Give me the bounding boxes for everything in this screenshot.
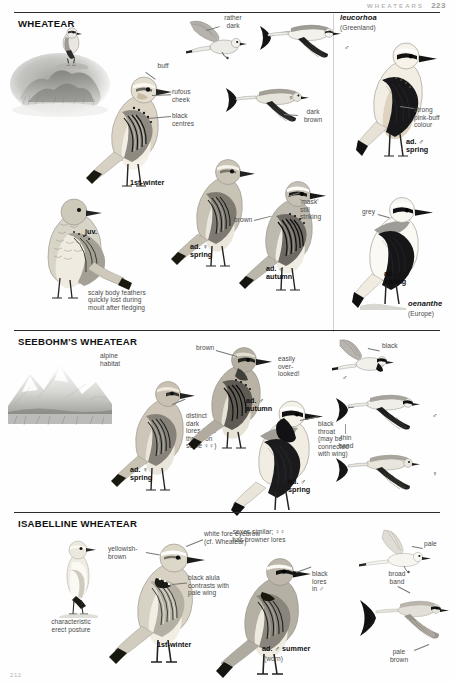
field-guide-page: WHEATEARS 223 WHEATEAR bbox=[0, 0, 454, 684]
label-sexes-similar: sexes similar; ♀♀ has browner lores bbox=[212, 528, 306, 543]
symbol-male-seebohms-flight: ♂ bbox=[342, 374, 347, 382]
leader-thin-band-up bbox=[345, 424, 346, 434]
label-thin-band: thin band bbox=[333, 434, 359, 449]
section-title-isabelline: ISABELLINE WHEATEAR bbox=[18, 518, 137, 529]
label-scaly-feathers: scaly body feathers quickly lost during … bbox=[88, 289, 184, 311]
age-label-leucorhoa-male-spring: ad. ♂ spring bbox=[406, 138, 428, 155]
age-label-seebohms-male-spring: ad. ♂ spring bbox=[288, 478, 310, 495]
taxon-oenanthe-region: (Europe) bbox=[408, 310, 434, 318]
age-label-adult-male-autumn-wheatear: ad. ♂ autumn bbox=[266, 265, 292, 282]
symbol-female-seebohms-flight: ♀ bbox=[432, 470, 437, 478]
label-erect-posture: characteristic erect posture bbox=[34, 618, 108, 633]
label-black-seebohms: black bbox=[382, 342, 398, 350]
bird-wheatear-flight-male-underside bbox=[258, 18, 344, 66]
label-alpine-habitat: alpine habitat bbox=[100, 352, 134, 367]
label-rufous-cheek: rufous cheek bbox=[172, 88, 208, 103]
label-pale-isabelline: pale bbox=[424, 540, 437, 548]
bird-wheatear-oenanthe-male-spring bbox=[352, 186, 450, 306]
page-number: 223 bbox=[431, 1, 446, 10]
label-brown-seebohms: brown bbox=[196, 344, 214, 352]
symbol-female-flight-1: ♀ bbox=[288, 94, 293, 102]
folio-number: 212 bbox=[10, 672, 22, 678]
section-rule-seebohms bbox=[14, 330, 440, 331]
age-label-isabelline-worn: (worn) bbox=[264, 655, 283, 663]
age-label-isabelline-male-summer: ad. ♂ summer bbox=[262, 645, 310, 653]
symbol-male-seebohms-flight-2: ♂ bbox=[432, 412, 437, 420]
section-rule-isabelline bbox=[14, 512, 440, 513]
age-label-seebohms-female-spring: ad. ♀ spring bbox=[130, 466, 152, 483]
bird-isabelline-erect-posture bbox=[54, 534, 106, 620]
symbol-male-flight-1: ♂ bbox=[344, 44, 349, 52]
label-rather-dark: rather dark bbox=[216, 14, 250, 29]
habitat-vignette-alpine bbox=[8, 352, 112, 430]
label-easily-overlooked: easily over- looked! bbox=[278, 355, 310, 378]
label-yellowish-brown: yellowish- brown bbox=[108, 545, 146, 560]
age-label-adult-female-spring-wheatear: ad. ♀ spring bbox=[190, 243, 212, 260]
running-head-title: WHEATEARS bbox=[367, 3, 424, 9]
label-dark-brown: dark brown bbox=[298, 108, 328, 123]
age-label-oenanthe-male-spring: ad. ♂ spring bbox=[384, 270, 406, 287]
label-black-centres: black centres bbox=[172, 112, 212, 127]
section-title-seebohms: SEEBOHM'S WHEATEAR bbox=[18, 336, 137, 347]
label-mask-striking: 'mask' still striking bbox=[300, 198, 336, 221]
label-pink-buff: strong pink-buff colour bbox=[414, 106, 452, 129]
label-brown-wheatear: brown bbox=[234, 216, 252, 224]
bird-seebohms-flight-female-underside bbox=[334, 452, 444, 500]
label-pale-brown: pale brown bbox=[384, 648, 414, 663]
bird-wheatear-first-winter bbox=[84, 60, 180, 190]
taxon-leucorhoa: leucorhoa bbox=[340, 14, 377, 22]
age-label-isabelline-first-winter: 1st-winter bbox=[157, 641, 191, 649]
label-grey: grey bbox=[362, 208, 375, 216]
age-label-first-winter-wheatear: 1st-winter bbox=[130, 179, 164, 187]
bird-wheatear-leucorhoa-male-spring bbox=[356, 28, 454, 158]
label-buff: buff bbox=[152, 62, 174, 70]
label-black-lores: black lores in ♂ bbox=[312, 570, 342, 593]
taxon-oenanthe: oenanthe bbox=[408, 300, 442, 308]
ground-line-oenanthe bbox=[358, 300, 408, 310]
label-broad-band: broad band bbox=[382, 570, 412, 585]
running-head: WHEATEARS 223 bbox=[367, 1, 446, 10]
bird-wheatear-juvenile bbox=[30, 190, 148, 300]
age-label-juvenile: juv. bbox=[85, 228, 97, 236]
